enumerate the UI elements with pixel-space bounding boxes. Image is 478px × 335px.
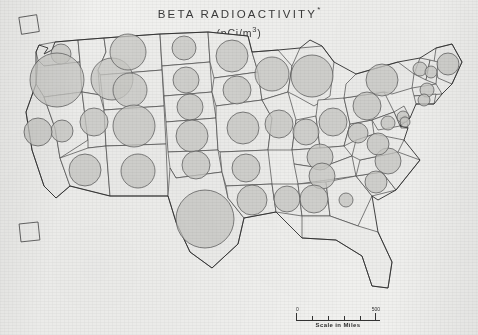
bubble-vermont bbox=[413, 62, 427, 76]
bubble-mississippi bbox=[274, 186, 300, 212]
bubble-michigan bbox=[291, 55, 333, 97]
hawaii-inset-box bbox=[19, 222, 40, 242]
bubble-california bbox=[24, 118, 52, 146]
scale-min-label: 0 bbox=[296, 306, 299, 312]
beta-radioactivity-map-figure: BETA RADIOACTIVITY* (pCi/m3) bbox=[0, 0, 478, 335]
scale-bar-rule bbox=[296, 313, 380, 321]
scale-tick-1 bbox=[312, 316, 313, 320]
bubble-iowa bbox=[223, 76, 251, 104]
scale-tick-2 bbox=[328, 316, 329, 320]
bubble-louisiana bbox=[237, 185, 267, 215]
bubble-texas bbox=[176, 190, 234, 248]
bubble-maryland bbox=[381, 116, 395, 130]
bubble-maine bbox=[437, 53, 459, 75]
bubble-southcarolina bbox=[365, 171, 387, 193]
alaska-inset-box bbox=[19, 15, 39, 35]
state-florida bbox=[302, 216, 392, 288]
scale-tick-3 bbox=[344, 316, 345, 320]
scale-tick-0 bbox=[296, 313, 297, 320]
bubble-colorado bbox=[113, 105, 155, 147]
bubble-georgia bbox=[339, 193, 353, 207]
bubble-northdakota bbox=[172, 36, 196, 60]
bubble-pennsylvania bbox=[353, 92, 381, 120]
bubble-minnesota bbox=[216, 40, 248, 72]
bubble-missouri bbox=[227, 112, 259, 144]
bubble-westvirginia bbox=[348, 123, 368, 143]
scale-tick-5 bbox=[375, 313, 376, 320]
bubble-southdakota bbox=[173, 67, 199, 93]
bubble-kansas bbox=[176, 120, 208, 152]
scale-tick-4 bbox=[360, 316, 361, 320]
bubble-arizona bbox=[69, 154, 101, 186]
bubble-montana bbox=[110, 34, 146, 70]
bubble-indiana bbox=[293, 119, 319, 145]
bubble-virginia bbox=[367, 133, 389, 155]
bubble-arkansas bbox=[232, 154, 260, 182]
scale-bar-numbers: 0 500 bbox=[296, 306, 380, 313]
bubble-nevada bbox=[51, 120, 73, 142]
bubble-newmexico bbox=[121, 154, 155, 188]
bubble-ohio bbox=[319, 108, 347, 136]
bubble-connecticut bbox=[418, 94, 430, 106]
bubble-newyork bbox=[366, 64, 398, 96]
scale-max-label: 500 bbox=[372, 306, 380, 312]
bubble-delaware bbox=[400, 117, 410, 127]
bubble-newhampshire bbox=[425, 66, 437, 78]
scale-bar: 0 500 Scale in Miles bbox=[296, 306, 380, 328]
bubble-illinois bbox=[265, 110, 293, 138]
bubble-alabama bbox=[300, 185, 328, 213]
bubble-wisconsin bbox=[255, 57, 289, 91]
bubble-nebraska bbox=[177, 94, 203, 120]
bubble-utah bbox=[80, 108, 108, 136]
bubble-wyoming bbox=[113, 73, 147, 107]
bubble-oregon bbox=[30, 53, 84, 107]
us-map-svg bbox=[0, 0, 478, 335]
scale-bar-label: Scale in Miles bbox=[296, 322, 380, 328]
bubble-oklahoma bbox=[182, 151, 210, 179]
